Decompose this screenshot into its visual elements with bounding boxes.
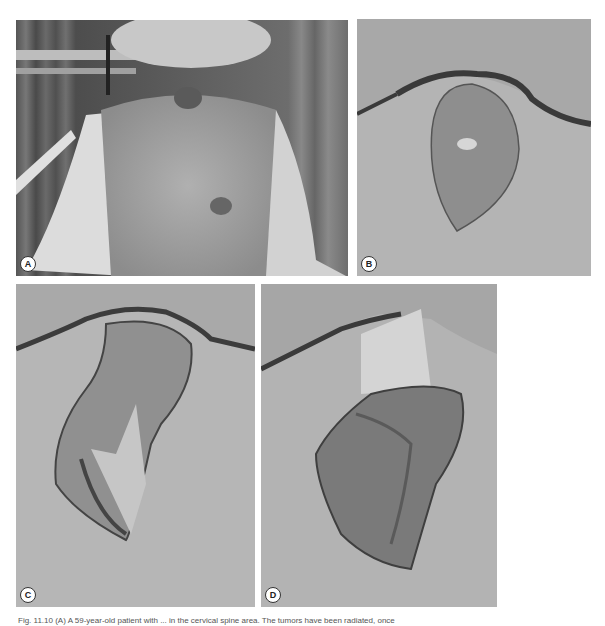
photo-panel-d: D [261, 284, 497, 607]
panel-label-d: D [265, 587, 281, 603]
photo-excision-outline [357, 19, 591, 276]
panel-label-a: A [20, 256, 36, 272]
photo-back-view [16, 20, 348, 276]
figure-caption: Fig. 11.10 (A) A 59-year-old patient wit… [18, 616, 605, 626]
photo-flap-dissection [16, 284, 255, 607]
photo-panel-a: A [16, 20, 348, 276]
panel-label-c: C [20, 587, 36, 603]
panel-label-b: B [361, 256, 377, 272]
photo-panel-c: C [16, 284, 255, 607]
photo-panel-b: B [357, 19, 591, 276]
photo-flap-rotation [261, 284, 497, 607]
